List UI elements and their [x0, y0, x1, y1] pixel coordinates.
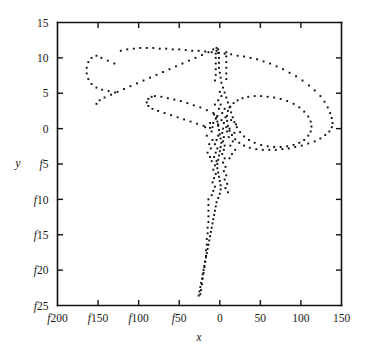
y-axis-ticks: [58, 58, 342, 270]
trajectory-plot: f200f150f100f50050100150 151050f5f10f15f…: [0, 0, 365, 354]
y-tick-label: 0: [43, 123, 49, 135]
x-tick-label: f200: [47, 312, 68, 325]
y-tick-label: f25: [34, 300, 49, 313]
y-tick-label: f10: [34, 194, 49, 207]
y-tick-label: 5: [43, 87, 49, 99]
x-axis-title: x: [195, 330, 202, 344]
x-tick-label: f100: [128, 312, 149, 325]
x-tick-label: 100: [292, 312, 310, 324]
x-axis-ticks: [98, 23, 301, 306]
axis-frame: [58, 23, 342, 306]
y-axis-title: y: [14, 156, 21, 170]
chart-figure: f200f150f100f50050100150 151050f5f10f15f…: [0, 0, 365, 354]
x-tick-label: 0: [217, 312, 223, 324]
y-axis-tick-labels: 151050f5f10f15f20f25: [34, 17, 49, 313]
y-tick-label: 15: [37, 17, 49, 29]
y-tick-label: f15: [34, 229, 49, 242]
x-tick-label: 50: [255, 312, 267, 324]
y-tick-label: 10: [37, 52, 49, 64]
y-tick-label: f5: [40, 158, 49, 171]
x-tick-label: f50: [172, 312, 187, 325]
x-tick-label: f150: [88, 312, 109, 325]
y-tick-label: f20: [34, 264, 49, 277]
x-tick-label: 150: [333, 312, 351, 324]
x-axis-tick-labels: f200f150f100f50050100150: [47, 312, 350, 325]
data-points-layer: [86, 47, 334, 297]
